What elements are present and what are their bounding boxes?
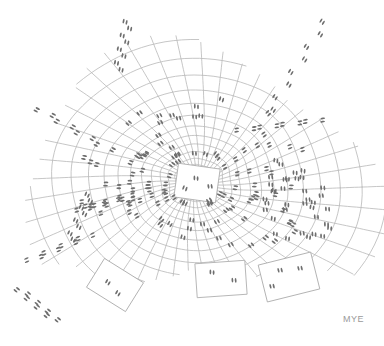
- artist-signature: MYE: [343, 314, 364, 324]
- warped-grid-drawing: [0, 0, 384, 346]
- artwork-canvas: MYE: [0, 0, 384, 346]
